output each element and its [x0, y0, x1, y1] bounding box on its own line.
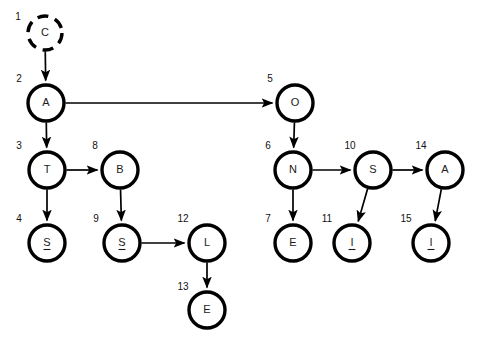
node-10-S[interactable]: S10	[344, 140, 391, 188]
edge-A-to-I	[435, 189, 441, 221]
node-label-10: S	[369, 163, 376, 175]
node-label-11: I	[350, 236, 353, 248]
node-index-4: 4	[16, 213, 22, 224]
node-1-C[interactable]: C1	[15, 11, 62, 50]
node-15-I[interactable]: I15	[400, 213, 449, 261]
graph-svg: C1A2T3S4O5N6E7B8S9S10I11L12E13A14I15	[0, 0, 481, 347]
node-index-11: 11	[322, 213, 333, 224]
node-6-N[interactable]: N6	[265, 140, 311, 188]
edge-B-to-S	[121, 189, 122, 220]
node-label-12: L	[204, 236, 210, 248]
node-index-15: 15	[400, 213, 412, 224]
node-index-3: 3	[16, 140, 22, 151]
node-14-A[interactable]: A14	[415, 140, 463, 188]
node-index-7: 7	[265, 213, 271, 224]
node-9-S[interactable]: S9	[93, 213, 140, 261]
node-label-15: I	[429, 236, 432, 248]
node-8-B[interactable]: B8	[92, 140, 138, 188]
node-index-13: 13	[177, 281, 189, 292]
node-12-L[interactable]: L12	[177, 213, 225, 261]
node-7-E[interactable]: E7	[265, 213, 311, 261]
node-index-10: 10	[344, 140, 356, 151]
node-index-5: 5	[267, 73, 273, 84]
diagram-canvas: C1A2T3S4O5N6E7B8S9S10I11L12E13A14I15	[0, 0, 481, 347]
edge-O-to-N	[294, 122, 295, 147]
node-11-I[interactable]: I11	[322, 213, 370, 261]
node-label-3: T	[44, 163, 51, 175]
edge-S-to-I	[358, 189, 367, 222]
node-13-E[interactable]: E13	[177, 281, 225, 328]
node-index-12: 12	[177, 213, 189, 224]
node-label-7: E	[289, 236, 296, 248]
node-2-A[interactable]: A2	[16, 73, 64, 121]
node-label-14: A	[441, 163, 449, 175]
node-label-4: S	[43, 236, 50, 248]
node-index-8: 8	[92, 140, 98, 151]
node-index-1: 1	[15, 11, 21, 22]
node-index-9: 9	[93, 213, 99, 224]
node-label-1: C	[41, 26, 49, 38]
node-3-T[interactable]: T3	[16, 140, 65, 188]
node-index-14: 14	[415, 140, 427, 151]
node-label-13: E	[203, 303, 210, 315]
node-label-5: O	[291, 96, 300, 108]
node-5-O[interactable]: O5	[267, 73, 313, 121]
node-label-6: N	[289, 163, 297, 175]
node-index-6: 6	[265, 140, 271, 151]
node-label-8: B	[116, 163, 123, 175]
node-index-2: 2	[16, 73, 22, 84]
node-label-9: S	[118, 236, 125, 248]
node-4-S[interactable]: S4	[16, 213, 65, 261]
node-label-2: A	[42, 96, 50, 108]
